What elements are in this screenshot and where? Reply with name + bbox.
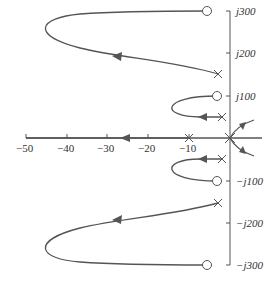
- root-locus-plot: −50 −40 −30 −20 −10 j300 j200 j100 −j100…: [0, 0, 278, 285]
- upper-large-branch: [45, 11, 218, 74]
- direction-arrow: [112, 52, 122, 61]
- zero-marker: [203, 261, 212, 270]
- pole-marker: [214, 199, 222, 207]
- tick-label-neg10: −10: [179, 142, 197, 154]
- zero-marker: [213, 92, 222, 101]
- tick-label-j300: j300: [234, 5, 256, 17]
- real-axis: −50 −40 −30 −20 −10: [16, 134, 262, 154]
- pole-marker: [214, 70, 222, 78]
- tick-label-neg-j100: −j100: [236, 175, 263, 187]
- tick-label-neg50: −50: [16, 142, 34, 154]
- tick-label-j200: j200: [234, 47, 256, 59]
- zero-marker: [203, 7, 212, 16]
- lower-large-branch: [45, 203, 218, 265]
- tick-label-neg-j300: −j300: [236, 259, 263, 271]
- direction-arrow: [112, 215, 122, 224]
- tick-label-neg30: −30: [97, 142, 115, 154]
- zero-marker: [213, 177, 222, 186]
- tick-label-neg40: −40: [57, 142, 75, 154]
- tick-label-j100: j100: [234, 90, 256, 102]
- direction-arrow: [198, 113, 207, 121]
- direction-arrow: [120, 134, 130, 142]
- tick-label-neg-j200: −j200: [236, 217, 263, 229]
- tick-label-neg20: −20: [138, 142, 156, 154]
- direction-arrow: [198, 155, 207, 163]
